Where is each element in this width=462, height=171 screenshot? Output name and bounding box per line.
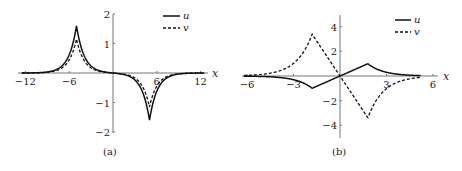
y-tick-label: 4 [331,22,337,33]
legend-b: u v [395,14,420,37]
x-tick-label: 6 [430,79,436,90]
y-tick-label: −4 [322,120,337,131]
y-tick-label: −1 [95,98,110,109]
figure: −12−661221−1−2 x u v (a) −6−33642−2−4 x … [0,0,462,171]
y-tick-label: 2 [331,46,337,57]
y-tick-label: −2 [322,96,337,107]
legend-a: u v [163,10,189,33]
caption-a: (a) [103,146,117,157]
x-tick-label: −12 [15,76,36,87]
x-tick-label: −6 [240,79,255,90]
x-tick-label: 12 [194,76,207,87]
xlabel-b: x [443,70,450,83]
legend-label-v-b: v [414,26,420,37]
legend-label-v-a: v [183,22,189,33]
x-tick-label: −6 [62,76,77,87]
xlabel-a: x [212,67,219,80]
panel-a: −12−661221−1−2 x u v (a) [15,9,219,157]
y-tick-label: 2 [104,9,110,20]
panel-b: −6−33642−2−4 x u v (b) [240,14,450,157]
legend-label-u-b: u [414,14,420,25]
y-tick-label: −2 [95,127,110,138]
y-tick-label: 1 [104,39,110,50]
caption-b: (b) [332,146,346,157]
legend-label-u-a: u [183,10,189,21]
